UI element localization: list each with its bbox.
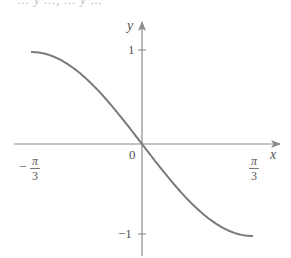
chart-canvas [0,0,291,258]
x-tick-left-sign: − [19,160,26,173]
y-tick-label-neg1: −1 [118,227,132,240]
x-axis-label: x [270,148,276,162]
origin-label: 0 [129,148,136,161]
x-tick-label-pi-over-3: π 3 [249,155,259,182]
fraction-denominator: 3 [32,170,38,182]
fraction-numerator: π [32,155,38,167]
x-tick-label-neg-pi-over-3: π 3 [30,155,40,182]
fraction-numerator: π [251,155,257,167]
y-tick-label-1: 1 [128,43,135,56]
y-axis-label: y [127,19,133,33]
fraction-denominator: 3 [251,170,257,182]
